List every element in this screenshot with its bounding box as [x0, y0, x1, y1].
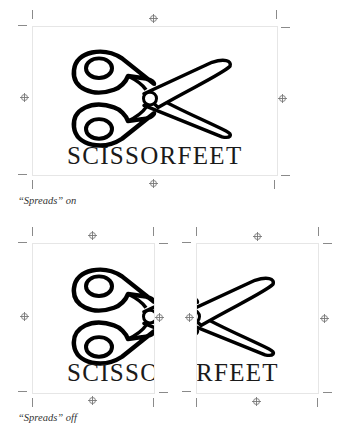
crop-mark-icon: [153, 398, 154, 407]
registration-crosshair-icon: [252, 397, 261, 406]
crop-mark-icon: [18, 242, 27, 243]
crop-mark-icon: [274, 180, 275, 189]
crop-mark-icon: [182, 242, 191, 243]
crop-mark-icon: [18, 25, 27, 26]
registration-crosshair-icon: [185, 313, 194, 322]
crop-mark-icon: [159, 243, 168, 244]
crop-mark-icon: [18, 174, 27, 175]
crop-mark-icon: [318, 227, 319, 236]
crop-mark-icon: [281, 175, 290, 176]
registration-crosshair-icon: [88, 396, 97, 405]
logo-wordmark-right: RFEET: [196, 360, 279, 385]
crop-mark-icon: [196, 398, 197, 407]
crop-mark-icon: [18, 391, 27, 392]
crop-mark-icon: [323, 392, 332, 393]
registration-crosshair-icon: [20, 93, 29, 102]
crop-mark-icon: [32, 180, 33, 189]
spread-page-frame: SCISSORFEET: [32, 26, 278, 176]
crop-mark-icon: [281, 27, 290, 28]
crop-mark-icon: [32, 227, 33, 236]
crop-mark-icon: [276, 10, 277, 19]
crop-mark-icon: [182, 391, 191, 392]
crop-mark-icon: [32, 398, 33, 407]
caption-spreads-on: “Spreads” on: [18, 195, 76, 206]
right-page-frame: RFEET: [196, 243, 319, 394]
registration-crosshair-icon: [149, 179, 158, 188]
crop-mark-icon: [323, 243, 332, 244]
registration-crosshair-icon: [253, 232, 262, 241]
registration-crosshair-icon: [88, 231, 97, 240]
logo-wordmark: SCISSORFEET: [67, 143, 242, 168]
left-page-frame: SCISSO: [32, 243, 155, 394]
crop-mark-icon: [159, 392, 168, 393]
crop-mark-icon: [317, 398, 318, 407]
registration-crosshair-icon: [149, 14, 158, 23]
crop-mark-icon: [153, 227, 154, 236]
crop-mark-icon: [196, 227, 197, 236]
crop-mark-icon: [32, 10, 33, 19]
registration-crosshair-icon: [20, 312, 29, 321]
logo-wordmark-left: SCISSO: [67, 360, 155, 385]
registration-crosshair-icon: [278, 94, 287, 103]
registration-crosshair-icon: [320, 314, 329, 323]
caption-spreads-off: “Spreads” off: [18, 412, 77, 423]
registration-crosshair-icon: [155, 313, 164, 322]
